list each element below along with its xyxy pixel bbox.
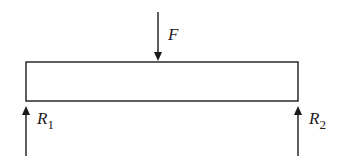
beam bbox=[26, 62, 298, 101]
reaction-r2-label: R2 bbox=[309, 110, 326, 131]
reaction-r1-arrow-icon bbox=[22, 106, 30, 156]
reaction-r2-arrow-icon bbox=[294, 106, 302, 156]
force-f-label: F bbox=[168, 26, 178, 43]
reaction-r1-label: R1 bbox=[37, 110, 54, 131]
force-f-arrow-icon bbox=[154, 12, 162, 61]
